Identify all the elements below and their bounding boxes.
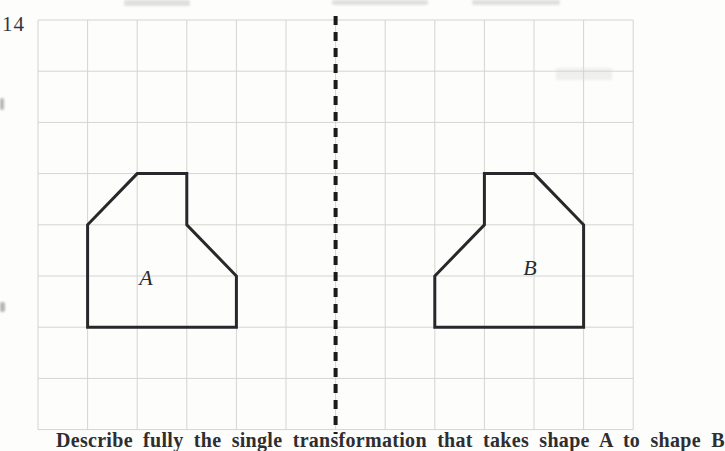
shape-a-outline: [88, 174, 237, 328]
clipped-caption-text: Describe fully the single transformation…: [56, 430, 636, 450]
shape-b-outline: [435, 174, 584, 328]
shape-a-label: A: [139, 265, 152, 291]
shape-b-label: B: [523, 255, 536, 281]
